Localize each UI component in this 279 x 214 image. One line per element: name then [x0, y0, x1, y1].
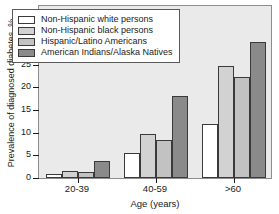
bar — [46, 174, 62, 178]
legend-item: Non-Hispanic white persons — [18, 14, 173, 25]
y-tick-label: 15 — [21, 104, 31, 114]
legend-swatch — [18, 16, 35, 24]
bar — [140, 134, 156, 178]
legend-item: Hispanic/Latino Americans — [18, 36, 173, 47]
legend-label: Non-Hispanic black persons — [41, 25, 153, 36]
bar — [78, 172, 94, 178]
bar — [234, 77, 250, 178]
legend-label: Non-Hispanic white persons — [41, 14, 153, 25]
y-tick-label: 20 — [21, 81, 31, 91]
bar — [156, 140, 172, 178]
x-axis-title: Age (years) — [38, 198, 272, 209]
bar — [62, 171, 78, 178]
legend-swatch — [18, 27, 35, 35]
legend-item: Non-Hispanic black persons — [18, 25, 173, 36]
y-tick-mark — [33, 110, 39, 111]
bar — [250, 42, 266, 178]
y-tick-label: 5 — [26, 149, 31, 159]
legend-item: American Indians/Alaska Natives — [18, 47, 173, 58]
bar — [218, 66, 234, 178]
bar — [202, 124, 218, 178]
bar — [124, 153, 140, 178]
x-tick-label: >60 — [225, 183, 241, 194]
y-tick-label: 0 — [26, 172, 31, 182]
y-tick-label: 10 — [21, 127, 31, 137]
x-tick-label: 40-59 — [143, 183, 167, 194]
y-tick-mark — [33, 133, 39, 134]
legend: Non-Hispanic white personsNon-Hispanic b… — [12, 9, 180, 63]
bar — [172, 96, 188, 178]
x-tick-label: 20-39 — [65, 183, 89, 194]
x-axis-tick-labels: 20-3940-59>60 — [38, 183, 272, 195]
legend-label: American Indians/Alaska Natives — [41, 47, 173, 58]
legend-swatch — [18, 49, 35, 57]
y-tick-mark — [33, 87, 39, 88]
bar — [94, 161, 110, 178]
y-tick-mark — [33, 178, 39, 179]
legend-swatch — [18, 38, 35, 46]
legend-label: Hispanic/Latino Americans — [41, 36, 147, 47]
chart-figure: Prevalence of diagnosed diabetes, % 0510… — [0, 0, 279, 214]
y-tick-mark — [33, 155, 39, 156]
y-tick-mark — [33, 65, 39, 66]
